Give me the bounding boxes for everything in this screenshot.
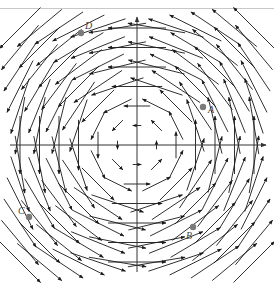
field-arrow [172,50,218,85]
point-d-dot [78,30,84,36]
field-arrow [216,200,252,245]
field-arrow [175,66,216,107]
field-arrow [82,90,114,122]
field-arrow [198,63,233,109]
field-arrow [172,206,218,241]
field-arrow [82,168,114,200]
field-arrow [21,200,57,245]
field-arrow [238,43,270,91]
field-arrow [35,12,83,44]
vector-field-diagram: ABCD [0,0,274,284]
point-c-dot [26,214,32,220]
field-arrow [58,66,99,107]
field-arrow [234,8,275,49]
point-c-label: C [18,205,25,216]
point-b-label: B [186,230,192,241]
field-arrow [175,183,216,224]
field-arrow [42,180,77,226]
field-arrow [160,90,192,122]
field-arrow [192,224,237,260]
field-arrow [238,199,270,247]
field-arrow [112,159,123,170]
labeled-points: ABCD [18,20,215,241]
field-arrow [112,120,123,131]
field-arrow [55,206,101,241]
field-arrow [0,8,41,49]
field-arrow [192,29,237,65]
field-arrow [36,29,81,65]
field-arrow [55,50,101,85]
field-arrow [36,224,81,260]
field-arrow [216,44,252,89]
field-arrow [151,159,162,170]
field-arrow [160,168,192,200]
field-arrow [234,242,275,283]
field-arrow [35,246,83,278]
point-d-label: D [84,20,93,31]
point-a-dot [200,104,206,110]
field-arrow [198,180,233,226]
field-arrow [58,183,99,224]
field-arrow [42,63,77,109]
field-arrow [21,44,57,89]
field-arrow [151,120,162,131]
field-arrow [0,242,41,283]
point-a-label: A [207,104,215,115]
